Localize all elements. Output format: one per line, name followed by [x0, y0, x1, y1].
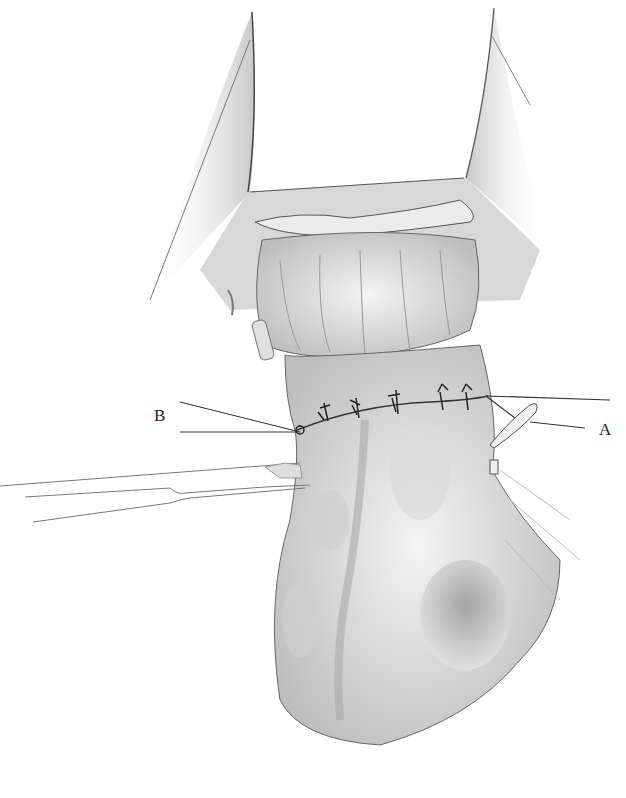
stay-suture-a [486, 396, 610, 474]
surgical-instrument [0, 463, 310, 522]
label-a: A [599, 420, 611, 440]
stay-suture-b [180, 402, 304, 434]
label-b: B [154, 406, 165, 426]
illustration-drawing [0, 0, 626, 798]
proximal-bowel [228, 233, 479, 362]
